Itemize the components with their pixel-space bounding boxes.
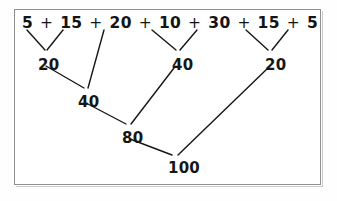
edge-term-20-to-sum-40a (88, 30, 104, 88)
edge-term-30-to-sum-40b (180, 30, 197, 50)
sum-node-40-b: 40 (172, 58, 193, 73)
addition-tree-diagram: 5 + 15 + 20 + 10 + 30 + 15 + 5 20 40 20 … (0, 0, 337, 201)
edge-term-5a-to-sum-20a (27, 30, 45, 50)
sum-node-80: 80 (122, 131, 143, 146)
edge-term-15a-to-sum-20a (47, 30, 63, 50)
edge-term-10-to-sum-40b (152, 30, 176, 50)
sum-node-20-b: 20 (265, 58, 286, 73)
sum-node-100-total: 100 (168, 161, 200, 176)
edge-sum-40b-to-sum-80 (131, 68, 174, 124)
edge-term-15b-to-sum-20b (246, 30, 268, 50)
edge-term-5b-to-sum-20b (272, 30, 288, 50)
sum-node-20-a: 20 (38, 58, 59, 73)
sum-node-40-a: 40 (78, 95, 99, 110)
edge-sum-20b-to-sum-100 (178, 68, 268, 155)
